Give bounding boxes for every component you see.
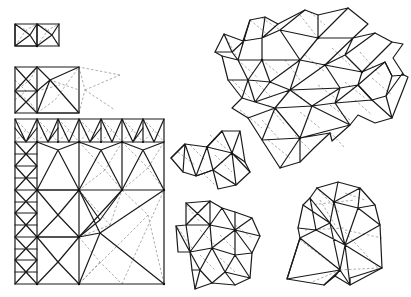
mesh-cluster-small-middle bbox=[171, 131, 250, 189]
mesh-large-square bbox=[15, 119, 165, 285]
diagram-canvas bbox=[0, 0, 411, 297]
mesh-cluster-bottom-right bbox=[287, 182, 382, 285]
mesh-cluster-bottom-middle bbox=[176, 201, 260, 289]
mesh-refined-rect bbox=[15, 67, 120, 113]
mesh-cluster-top-right bbox=[215, 8, 408, 168]
mesh-small-rect bbox=[15, 24, 59, 47]
